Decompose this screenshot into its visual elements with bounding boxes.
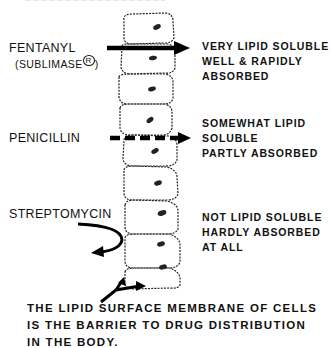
caption-line: IS THE BARRIER TO DRUG DISTRIBUTION — [27, 317, 317, 334]
cell-nuclei — [145, 23, 167, 270]
description-line: PARTLY ABSORBED — [202, 146, 318, 161]
caption-line: IN THE BODY. — [27, 334, 317, 348]
drug-sublabel-fentanyl: (SUBLIMASER) — [15, 56, 99, 71]
diagram-caption: THE LIPID SURFACE MEMBRANE OF CELLS IS T… — [27, 300, 317, 348]
description-line: HARDLY ABSORBED — [202, 225, 322, 240]
drug-label-fentanyl: FENTANYL — [9, 41, 76, 55]
cell-column — [119, 13, 180, 289]
cell-6 — [124, 166, 178, 200]
fentanyl-brand: (SUBLIMASE — [15, 58, 83, 70]
description-line: SOLUBLE — [202, 131, 318, 146]
registered-trademark-icon: R — [83, 55, 95, 66]
drug-label-streptomycin: STREPTOMYCIN — [9, 207, 112, 221]
cell-1 — [124, 13, 174, 44]
caption-line: THE LIPID SURFACE MEMBRANE OF CELLS — [27, 300, 317, 317]
membrane-pointer-arrow — [101, 277, 146, 302]
drug-label-penicillin: PENICILLIN — [9, 131, 80, 145]
description-penicillin: SOMEWHAT LIPID SOLUBLE PARTLY ABSORBED — [202, 116, 318, 161]
penicillin-arrow — [110, 132, 191, 144]
cell-4 — [120, 104, 172, 135]
description-line: VERY LIPID SOLUBLE — [202, 39, 329, 54]
cell-8 — [125, 234, 180, 268]
description-line: WELL & RAPIDLY — [202, 54, 329, 69]
description-line: SOMEWHAT LIPID — [202, 116, 318, 131]
description-fentanyl: VERY LIPID SOLUBLE WELL & RAPIDLY ABSORB… — [202, 39, 329, 84]
fentanyl-brand-close: ) — [95, 58, 99, 70]
cell-7 — [125, 200, 178, 234]
cell-3 — [119, 74, 173, 104]
description-line: NOT LIPID SOLUBLE — [202, 210, 322, 225]
description-line: AT ALL — [202, 240, 322, 255]
description-streptomycin: NOT LIPID SOLUBLE HARDLY ABSORBED AT ALL — [202, 210, 322, 255]
streptomycin-deflect-arrow — [78, 224, 122, 257]
fentanyl-arrow — [107, 41, 190, 55]
description-line: ABSORBED — [202, 69, 329, 84]
